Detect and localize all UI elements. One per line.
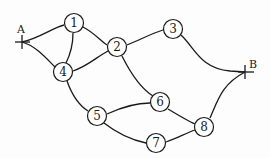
node-label: 1: [70, 16, 78, 30]
edge-6-8: [168, 109, 195, 124]
terminal-B-label: B: [249, 58, 257, 71]
node-7: 7: [147, 134, 166, 153]
terminal-B: B: [238, 58, 257, 79]
edge-1-2: [83, 27, 107, 45]
node-label: 3: [169, 22, 177, 36]
edge-2-6: [122, 56, 153, 96]
node-label: 4: [59, 65, 67, 79]
edge-A-1: [22, 25, 64, 42]
edge-8-B: [210, 72, 245, 118]
edge-1-4: [66, 33, 73, 63]
node-8: 8: [195, 118, 214, 137]
node-6: 6: [151, 93, 170, 112]
node-4: 4: [54, 63, 73, 82]
node-1: 1: [65, 14, 84, 33]
edge-4-2: [73, 51, 108, 71]
edge-4-5: [67, 81, 88, 111]
node-label: 6: [156, 95, 164, 109]
node-label: 8: [200, 120, 208, 134]
edge-5-6: [107, 103, 150, 114]
diagram-svg: A B 1 2 3 4 5 6: [0, 0, 271, 158]
edge-5-7: [104, 123, 146, 143]
edge-7-8: [166, 130, 195, 142]
node-2: 2: [108, 38, 127, 57]
network-diagram: A B 1 2 3 4 5 6: [0, 0, 271, 158]
node-label: 2: [113, 40, 121, 54]
node-3: 3: [164, 20, 183, 39]
edge-A-4: [22, 42, 55, 67]
node-5: 5: [88, 107, 107, 126]
edge-3-B: [181, 35, 245, 72]
edge-2-3: [127, 30, 163, 45]
node-label: 5: [93, 109, 101, 123]
terminal-A: A: [15, 23, 30, 49]
terminal-A-label: A: [16, 23, 26, 36]
node-label: 7: [152, 136, 160, 150]
